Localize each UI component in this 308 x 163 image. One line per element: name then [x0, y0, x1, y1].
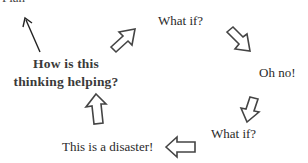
node-oh-no: Oh no! — [259, 65, 295, 80]
node-disaster: This is a disaster! — [62, 139, 153, 154]
center-question-line2: thinking helping? — [7, 73, 125, 91]
cut-off-top-text: Plan — [2, 0, 25, 6]
node-what-if-1: What if? — [158, 13, 203, 28]
node-what-if-2: What if? — [211, 126, 256, 141]
hollow-arrow-down-right-icon — [223, 25, 255, 55]
hollow-arrow-up-icon — [83, 92, 109, 126]
thin-arrow-up-left-icon — [20, 14, 50, 54]
center-question: How is this thinking helping? — [7, 55, 125, 91]
center-question-line1: How is this — [7, 55, 125, 73]
hollow-arrow-down-left-icon — [233, 94, 265, 126]
hollow-arrow-up-right-icon — [108, 26, 140, 56]
hollow-arrow-left-icon — [164, 134, 198, 160]
